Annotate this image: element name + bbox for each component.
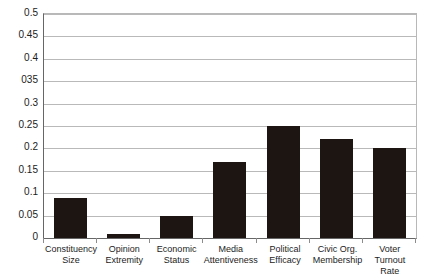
x-category-label-line: Economic <box>151 244 201 255</box>
y-tick-label: 0.45 <box>19 30 38 40</box>
bar-slot <box>257 14 310 238</box>
bar[interactable] <box>54 198 87 238</box>
bar-slot <box>150 14 203 238</box>
x-category-label-line: Media <box>204 244 258 255</box>
x-category-label-line: Rate <box>365 266 415 275</box>
y-axis: 00.050.10.150.20.250.30350.40.450.5 <box>0 0 41 275</box>
x-tick <box>202 238 203 243</box>
y-tick-label: 035 <box>21 75 38 85</box>
x-category-label-line: Opinion <box>99 244 149 255</box>
y-tick-label: 0.4 <box>24 53 38 63</box>
x-category-label-line: Voter Turnout <box>365 244 415 266</box>
x-tick <box>96 238 97 243</box>
bar-slot <box>203 14 256 238</box>
y-tick-label: 0.1 <box>24 187 38 197</box>
x-category-label: Civic Org.Membership <box>311 244 363 275</box>
bar-slot <box>97 14 150 238</box>
x-category-label-line: Political <box>260 244 310 255</box>
bar-slot <box>310 14 363 238</box>
x-category-label: EconomicStatus <box>150 244 202 275</box>
y-tick-label: 0.5 <box>24 8 38 18</box>
x-category-label: OpinionExtremity <box>98 244 150 275</box>
bar[interactable] <box>267 126 300 238</box>
x-category-label-line: Civic Org. <box>312 244 362 255</box>
x-category-label: Voter TurnoutRate <box>364 244 416 275</box>
bar-chart: 00.050.10.150.20.250.30350.40.450.5 Cons… <box>0 0 435 275</box>
x-tick <box>362 238 363 243</box>
y-tick-label: 0.15 <box>19 165 38 175</box>
x-category-label-line: Attentiveness <box>204 255 258 266</box>
x-tick <box>43 238 44 243</box>
x-category-label: ConstituencySize <box>44 244 98 275</box>
y-tick-label: 0.3 <box>24 98 38 108</box>
bars-layer <box>44 14 416 238</box>
x-tick <box>309 238 310 243</box>
x-tick <box>415 238 416 243</box>
bar[interactable] <box>320 139 353 238</box>
x-category-label-line: Constituency <box>45 244 97 255</box>
x-axis-ticks <box>43 238 417 243</box>
x-axis: ConstituencySizeOpinionExtremityEconomic… <box>44 244 416 275</box>
bar-slot <box>363 14 416 238</box>
x-category-label-line: Extremity <box>99 255 149 266</box>
y-tick-label: 0.05 <box>19 210 38 220</box>
y-tick-label: 0.2 <box>24 142 38 152</box>
x-category-label-line: Status <box>151 255 201 266</box>
x-category-label-line: Membership <box>312 255 362 266</box>
bar-slot <box>44 14 97 238</box>
y-tick-label: 0 <box>32 232 38 242</box>
bar[interactable] <box>160 216 193 238</box>
x-category-label-line: Size <box>45 255 97 266</box>
plot-area <box>43 13 417 239</box>
x-category-label: MediaAttentiveness <box>203 244 259 275</box>
y-tick-label: 0.25 <box>19 120 38 130</box>
x-tick <box>256 238 257 243</box>
x-tick <box>149 238 150 243</box>
x-category-label-line: Efficacy <box>260 255 310 266</box>
bar[interactable] <box>373 148 406 238</box>
x-category-label: PoliticalEfficacy <box>259 244 311 275</box>
bar[interactable] <box>213 162 246 238</box>
